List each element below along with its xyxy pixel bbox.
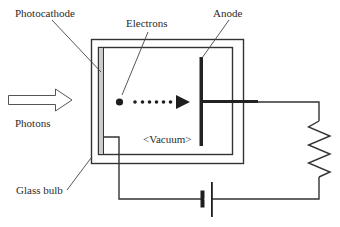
battery-positive-plate [211, 182, 213, 217]
electron-trail-dot [133, 100, 137, 104]
glass-bulb-label: Glass bulb [16, 184, 63, 196]
electron-trail-dot [148, 100, 152, 104]
electron-trail-dot [169, 100, 173, 104]
photocathode-leader [52, 20, 101, 72]
electron-dot [116, 98, 123, 105]
electron-path [116, 95, 190, 109]
electrons-label: Electrons [126, 17, 168, 29]
electrons-leader [122, 32, 148, 95]
vacuum-label: <Vacuum> [143, 133, 191, 145]
phototube-diagram: Photocathode Electrons Anode Photons <Va… [0, 0, 340, 227]
photons-label: Photons [15, 117, 50, 129]
battery-icon [201, 182, 213, 217]
electron-trail-dot [155, 100, 159, 104]
electron-arrowhead-icon [176, 95, 190, 109]
photon-arrow-icon [9, 89, 73, 111]
circuit-wire [104, 102, 331, 199]
resistor-icon [309, 121, 331, 177]
photocathode-label: Photocathode [15, 7, 75, 19]
anode-label: Anode [213, 7, 242, 19]
photocathode [99, 48, 104, 155]
electron-trail-dot [141, 100, 145, 104]
anode-lead [201, 100, 258, 103]
battery-negative-plate [201, 191, 205, 208]
glass-bulb-leader [67, 158, 91, 190]
electron-trail-dot [162, 100, 166, 104]
